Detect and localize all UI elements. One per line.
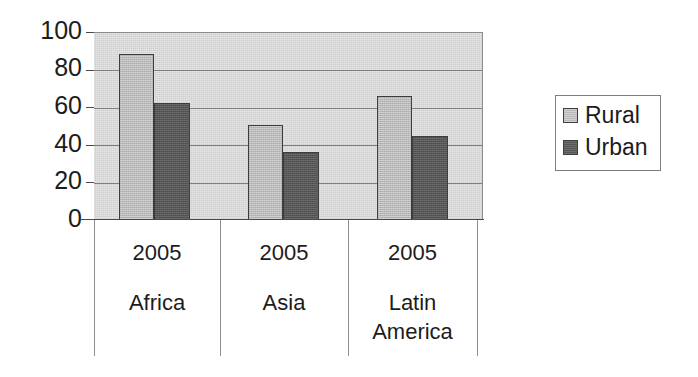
bar-chart-figure: 100 80 60 40 20 0 2005 Africa (0, 0, 698, 377)
bar-asia-rural (248, 125, 283, 220)
y-tick-label-60: 60 (8, 93, 82, 118)
bar-asia-urban (283, 152, 319, 220)
category-region-asia: Asia (220, 288, 348, 317)
y-tick-label-80: 80 (8, 55, 82, 80)
category-label-table: 2005 Africa 2005 Asia 2005 Latin America (94, 220, 484, 356)
legend-label-urban: Urban (585, 136, 648, 159)
category-region-africa: Africa (94, 288, 220, 317)
category-separator-right (477, 220, 478, 356)
category-year-africa: 2005 (94, 240, 220, 266)
category-cell-latin-america: 2005 Latin America (348, 220, 477, 356)
y-tick-label-40: 40 (8, 131, 82, 156)
category-year-latin-america: 2005 (348, 240, 477, 266)
y-tick-label-0: 0 (8, 206, 82, 231)
y-tick-label-100: 100 (8, 18, 82, 43)
bar-latin-america-rural (377, 96, 412, 220)
category-region-latin-america: Latin America (348, 288, 477, 346)
category-year-asia: 2005 (220, 240, 348, 266)
bar-africa-rural (119, 54, 154, 220)
bar-africa-urban (154, 103, 190, 220)
y-tick-label-20: 20 (8, 168, 82, 193)
bar-latin-america-urban (412, 136, 448, 220)
legend: Rural Urban (555, 95, 661, 171)
legend-label-rural: Rural (585, 104, 640, 127)
category-cell-africa: 2005 Africa (94, 220, 220, 356)
legend-item-urban: Urban (563, 136, 648, 159)
legend-item-rural: Rural (563, 104, 640, 127)
y-axis: 100 80 60 40 20 0 (8, 18, 82, 226)
legend-swatch-rural-icon (563, 108, 578, 123)
category-cell-asia: 2005 Asia (220, 220, 348, 356)
plot-area (94, 32, 483, 220)
legend-swatch-urban-icon (563, 140, 578, 155)
